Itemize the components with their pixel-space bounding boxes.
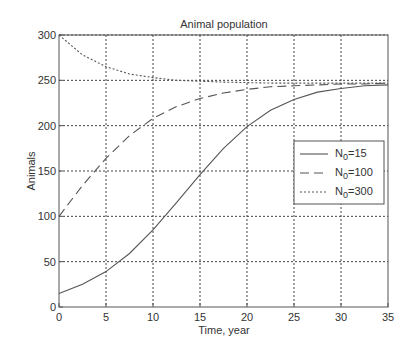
x-tick-label: 15 (194, 311, 206, 323)
x-tick-labels: 05101520253035 (56, 311, 394, 323)
population-chart: Animal population 05101520253035 0501001… (0, 0, 413, 350)
y-tick-label: 100 (38, 210, 56, 222)
y-tick-label: 0 (50, 301, 56, 313)
x-tick-label: 20 (241, 311, 253, 323)
x-tick-label: 0 (56, 311, 62, 323)
series-line-dotted (59, 35, 388, 83)
x-tick-label: 25 (288, 311, 300, 323)
x-tick-label: 30 (335, 311, 347, 323)
y-tick-label: 150 (38, 165, 56, 177)
x-axis-label: Time, year (198, 324, 250, 336)
chart-title: Animal population (180, 18, 267, 30)
y-tick-label: 50 (44, 256, 56, 268)
x-tick-label: 5 (103, 311, 109, 323)
y-tick-label: 250 (38, 74, 56, 86)
y-tick-label: 200 (38, 120, 56, 132)
y-tick-labels: 050100150200250300 (38, 29, 56, 313)
x-tick-label: 35 (382, 311, 394, 323)
y-tick-label: 300 (38, 29, 56, 41)
legend: N0=15N0=100N0=300 (294, 141, 384, 204)
x-tick-label: 10 (147, 311, 159, 323)
y-axis-label: Animals (25, 151, 37, 191)
